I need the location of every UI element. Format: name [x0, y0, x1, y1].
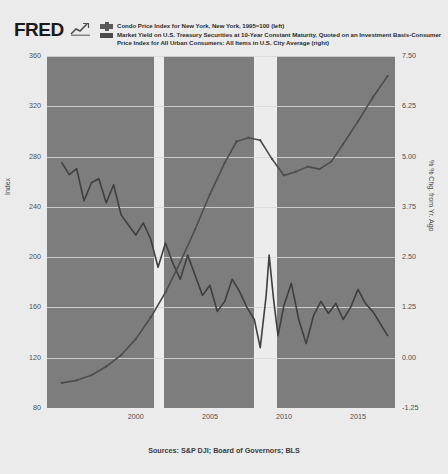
- y-axis-left-tick-label: 200: [1, 253, 41, 261]
- y-axis-left-tick-label: 160: [1, 303, 41, 311]
- y-axis-right-tick-label: -1.25: [402, 404, 442, 412]
- series-point: [194, 228, 196, 230]
- x-axis-tick-label: 2000: [128, 412, 144, 421]
- chart-header: FRED Condo Price Index for New York, New…: [0, 10, 448, 46]
- chart-legend: Condo Price Index for New York, New York…: [100, 22, 444, 47]
- series-point: [90, 374, 92, 376]
- y-axis-right-tick-label: 3.75: [402, 203, 442, 211]
- y-axis-right-tick-label: 1.25: [402, 303, 442, 311]
- x-axis-tick-label: 2015: [350, 412, 366, 421]
- y-axis-left-tick-label: 360: [1, 52, 41, 60]
- series-point: [61, 382, 63, 384]
- y-axis-right-tick-label: 5.00: [402, 153, 442, 161]
- y-axis-left-tick-label: 280: [1, 153, 41, 161]
- series-point: [386, 75, 388, 77]
- series-point: [318, 168, 320, 170]
- series-point: [135, 338, 137, 340]
- chart-series-layer: [47, 56, 395, 408]
- source-note: Sources: S&P DJI; Board of Governors; BL…: [0, 446, 448, 455]
- series-point: [164, 291, 166, 293]
- series-point: [283, 174, 285, 176]
- x-axis-ticks: 2000200520102015: [47, 412, 395, 424]
- y-axis-right-ticks: -1.250.001.252.503.755.006.257.50: [399, 56, 443, 408]
- fred-chart-card: FRED Condo Price Index for New York, New…: [0, 0, 448, 474]
- series-point: [295, 171, 297, 173]
- y-axis-right-tick-label: 0.00: [402, 354, 442, 362]
- y-axis-right-title: % % Chg. from Yr. Ago: [428, 160, 435, 231]
- series-line-treasury-yield-cpi: [62, 163, 388, 348]
- y-axis-left-tick-label: 240: [1, 203, 41, 211]
- series-point: [235, 140, 237, 142]
- y-axis-right-tick-label: 7.50: [402, 52, 442, 60]
- legend-label-treasury-yield-cpi: Market Yield on U.S. Treasury Securities…: [117, 31, 444, 46]
- series-point: [120, 354, 122, 356]
- legend-marker-solid-line-icon: [100, 33, 113, 38]
- y-axis-left-tick-label: 320: [1, 102, 41, 110]
- series-point: [224, 162, 226, 164]
- series-point: [105, 365, 107, 367]
- series-point: [357, 120, 359, 122]
- series-point: [342, 143, 344, 145]
- series-point: [306, 165, 308, 167]
- legend-item-condo-price-index[interactable]: Condo Price Index for New York, New York…: [100, 22, 444, 30]
- series-point: [209, 193, 211, 195]
- series-point: [372, 96, 374, 98]
- chart-plot-wrapper: [47, 56, 395, 408]
- x-axis-tick-label: 2005: [202, 412, 218, 421]
- series-point: [179, 261, 181, 263]
- y-axis-left-tick-label: 120: [1, 354, 41, 362]
- series-point: [75, 379, 77, 381]
- x-axis-tick-label: 2010: [276, 412, 292, 421]
- legend-marker-cross-line-icon: [100, 24, 113, 29]
- series-point: [330, 160, 332, 162]
- series-point: [271, 158, 273, 160]
- legend-item-treasury-yield-cpi[interactable]: Market Yield on U.S. Treasury Securities…: [100, 31, 444, 46]
- series-line-condo-price-index: [62, 76, 388, 383]
- y-axis-left-ticks: 80120160200240280320360: [0, 56, 44, 408]
- series-point: [247, 137, 249, 139]
- chart-swoosh-icon: [70, 22, 92, 36]
- chart-plot-area[interactable]: [47, 56, 395, 408]
- y-axis-left-tick-label: 80: [1, 404, 41, 412]
- y-axis-left-title: Index: [4, 178, 11, 195]
- legend-label-condo-price-index: Condo Price Index for New York, New York…: [117, 22, 444, 30]
- y-axis-right-tick-label: 6.25: [402, 102, 442, 110]
- series-point: [150, 316, 152, 318]
- series-markers-condo-price-index: [61, 75, 389, 384]
- series-point: [259, 139, 261, 141]
- fred-logo: FRED: [14, 20, 64, 39]
- y-axis-right-tick-label: 2.50: [402, 253, 442, 261]
